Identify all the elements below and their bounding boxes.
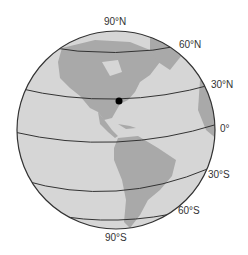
label-90s: 90°S bbox=[105, 233, 127, 243]
label-60s: 60°S bbox=[178, 206, 200, 216]
location-marker bbox=[116, 98, 123, 105]
label-30s: 30°S bbox=[208, 170, 230, 180]
globe-diagram bbox=[0, 0, 248, 255]
label-60n: 60°N bbox=[179, 40, 201, 50]
label-equator: 0° bbox=[220, 124, 230, 134]
label-30n: 30°N bbox=[211, 80, 233, 90]
label-90n: 90°N bbox=[104, 17, 126, 27]
